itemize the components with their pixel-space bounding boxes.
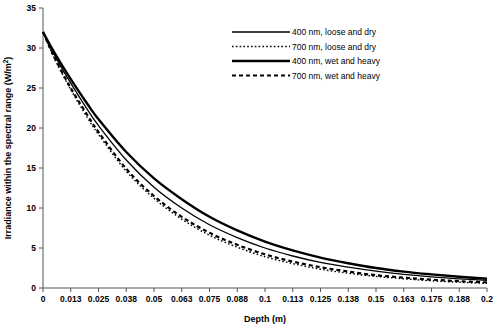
irradiance-vs-depth-chart: 0510152025303500.0130.0250.0380.050.0630…: [0, 0, 498, 330]
svg-text:Irradiance within the spectral: Irradiance within the spectral range (W/…: [2, 57, 14, 240]
legend-label-2: 700 nm, loose and dry: [292, 42, 377, 52]
tick-labels-group: 0510152025303500.0130.0250.0380.050.0630…: [27, 3, 494, 304]
x-axis-title: Depth (m): [244, 314, 286, 324]
x-tick-label: 0.088: [227, 294, 249, 304]
y-tick-label: 5: [31, 243, 36, 253]
curve-700-nm-loose-and-dry: [43, 32, 487, 283]
curve-700-nm-wet-and-heavy: [43, 32, 487, 282]
x-tick-label: 0.113: [282, 294, 303, 304]
x-tick-label: 0.15: [368, 294, 385, 304]
x-tick-label: 0.188: [449, 294, 471, 304]
legend-label-4: 700 nm, wet and heavy: [292, 71, 381, 81]
y-axis-title: Irradiance within the spectral range (W/…: [2, 57, 14, 240]
x-tick-label: 0.163: [393, 294, 415, 304]
chart-container: 0510152025303500.0130.0250.0380.050.0630…: [0, 0, 498, 330]
x-tick-label: 0.2: [481, 294, 493, 304]
x-tick-label: 0.175: [421, 294, 443, 304]
x-tick-label: 0.1: [259, 294, 271, 304]
curve-400-nm-wet-and-heavy: [43, 32, 487, 279]
legend-label-3: 400 nm, wet and heavy: [292, 56, 381, 66]
curve-400-nm-loose-and-dry: [43, 32, 487, 280]
y-tick-label: 0: [31, 283, 36, 293]
x-tick-label: 0.063: [171, 294, 193, 304]
x-tick-label: 0.075: [199, 294, 221, 304]
axes-group: [39, 8, 487, 292]
chart-legend: 400 nm, loose and dry700 nm, loose and d…: [232, 27, 381, 81]
y-axis-title-close: ): [3, 57, 13, 60]
y-tick-label: 35: [27, 3, 37, 13]
x-tick-label: 0.05: [146, 294, 163, 304]
legend-label-1: 400 nm, loose and dry: [292, 27, 377, 37]
x-tick-label: 0.013: [60, 294, 82, 304]
x-tick-label: 0.125: [310, 294, 332, 304]
x-tick-label: 0.038: [116, 294, 138, 304]
x-tick-label: 0.138: [338, 294, 360, 304]
x-tick-label: 0: [41, 294, 46, 304]
y-tick-label: 10: [27, 203, 37, 213]
y-tick-label: 15: [27, 163, 37, 173]
y-tick-label: 25: [27, 83, 37, 93]
data-curves-group: [43, 32, 487, 283]
y-axis-title-main: Irradiance within the spectral range (W/…: [3, 63, 13, 239]
y-tick-label: 30: [27, 43, 37, 53]
y-tick-label: 20: [27, 123, 37, 133]
x-tick-label: 0.025: [88, 294, 110, 304]
